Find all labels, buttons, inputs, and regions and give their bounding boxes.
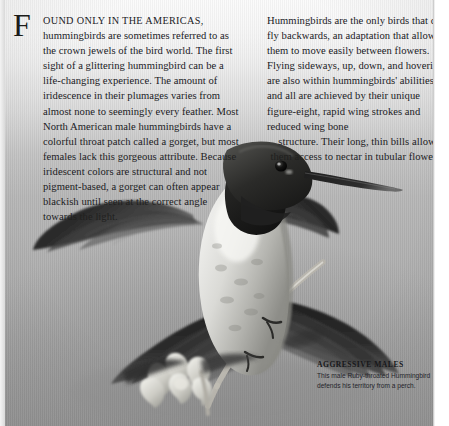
page-root: F OUND ONLY IN THE AMERICAS, hummingbird… — [0, 0, 449, 426]
body-text-left-column: OUND ONLY IN THE AMERICAS, hummingbirds … — [43, 13, 239, 224]
page-left-gutter — [0, 0, 5, 426]
right-column-body: Hummingbirds are the only birds that can… — [267, 15, 435, 132]
drop-cap: F — [13, 10, 31, 40]
photo-caption: AGGRESSIVE MALES This male Ruby-throated… — [317, 360, 433, 390]
right-column-tail: structure. Their long, thin bills allow … — [267, 134, 435, 164]
lead-small-caps: OUND ONLY IN THE AMERICAS, — [43, 15, 204, 26]
body-text-right-column: Hummingbirds are the only birds that can… — [267, 13, 435, 164]
caption-body: This male Ruby-throated Hummingbird defe… — [317, 371, 433, 390]
page-right-margin — [435, 0, 449, 426]
printed-page: F OUND ONLY IN THE AMERICAS, hummingbird… — [5, 0, 435, 426]
page-right-edge — [433, 0, 435, 426]
caption-title: AGGRESSIVE MALES — [317, 360, 433, 369]
left-column-body: hummingbirds are sometimes referred to a… — [43, 30, 239, 222]
